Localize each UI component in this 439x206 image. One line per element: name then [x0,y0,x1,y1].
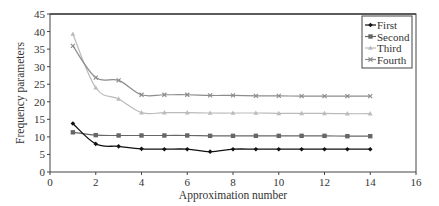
square-marker [299,134,303,138]
square-marker [139,133,143,137]
x-marker [94,76,98,80]
square-marker [162,133,166,137]
diamond-marker [368,147,373,152]
square-marker [345,134,349,138]
series-line [73,46,370,96]
y-tick-label: 0 [40,166,46,178]
diamond-marker [345,147,350,152]
square-marker [277,134,281,138]
square-marker [368,34,372,38]
x-tick-label: 2 [93,176,99,188]
series-first [71,121,373,154]
y-tick-label: 30 [34,61,46,73]
legend-label: Second [377,31,410,43]
legend: FirstSecondThirdFourth [362,16,412,68]
diamond-marker [116,144,121,149]
square-marker [231,134,235,138]
square-marker [322,134,326,138]
square-marker [116,133,120,137]
square-marker [71,130,75,134]
legend-label: Third [377,42,402,54]
x-tick-label: 8 [230,176,236,188]
series-third [70,31,372,115]
diamond-marker [276,147,281,152]
x-axis-title: Approximation number [179,189,287,202]
series-fourth [71,44,372,98]
square-marker [208,134,212,138]
diamond-marker [254,147,259,152]
triangle-marker [70,31,75,35]
y-tick-label: 25 [34,78,46,90]
series-layer [70,31,372,154]
y-axis-title: Frequency parameters [14,42,27,144]
square-marker [94,133,98,137]
square-marker [368,134,372,138]
x-axis: 0246810121416 [47,172,422,188]
x-tick-label: 12 [319,176,330,188]
diamond-marker [185,147,190,152]
x-marker [71,44,75,48]
square-marker [254,134,258,138]
diamond-marker [231,147,236,152]
diamond-marker [299,147,304,152]
y-tick-label: 45 [34,8,46,20]
y-axis: 051015202530354045 [34,8,50,178]
legend-label: Fourth [377,54,407,66]
y-tick-label: 35 [34,43,46,55]
y-tick-label: 15 [34,113,46,125]
y-tick-label: 10 [34,131,46,143]
x-tick-label: 16 [411,176,423,188]
y-tick-label: 5 [40,148,46,160]
line-chart: 051015202530354045 0246810121416 Approxi… [0,0,439,206]
diamond-marker [208,149,213,154]
square-marker [185,133,189,137]
y-tick-label: 40 [34,26,46,38]
y-tick-label: 20 [34,96,46,108]
series-second [71,130,373,138]
x-tick-label: 10 [273,176,285,188]
diamond-marker [162,147,167,152]
x-tick-label: 6 [185,176,191,188]
legend-label: First [377,19,397,31]
diamond-marker [322,147,327,152]
x-tick-label: 4 [139,176,145,188]
series-line [73,34,370,114]
x-tick-label: 14 [365,176,377,188]
x-tick-label: 0 [47,176,53,188]
diamond-marker [139,147,144,152]
